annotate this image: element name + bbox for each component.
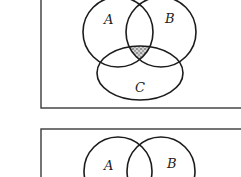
venn-diagram-figure: A B C A B: [0, 0, 241, 177]
venn-diagram-top: A B C: [41, 0, 241, 108]
set-a-label-top: A: [103, 12, 113, 27]
venn-diagram-bottom: A B: [41, 129, 241, 177]
set-c-label-top: C: [135, 80, 145, 95]
set-b-label-top: B: [164, 11, 175, 26]
set-b-circle-top: [126, 0, 196, 67]
set-b-label-bottom: B: [166, 156, 177, 171]
universe-frame-bottom: [41, 129, 241, 177]
set-a-label-bottom: A: [103, 158, 113, 173]
set-a-circle-top: [83, 0, 153, 67]
